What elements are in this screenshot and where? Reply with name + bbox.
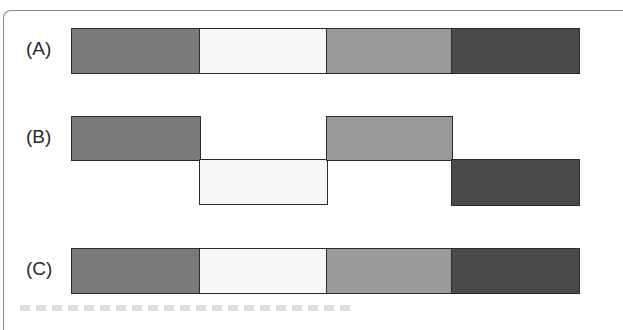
row-c-segment-4 [451,248,580,294]
row-b-segment-2 [199,159,328,205]
row-b-segment-3 [326,116,453,161]
row-c-segment-3 [326,248,453,294]
row-b-segment-4 [451,159,580,206]
row-label-b: (B) [26,126,66,148]
row-a-segment-1 [71,28,201,74]
row-b-segment-1 [71,116,201,161]
row-a-segment-2 [199,28,328,74]
row-a-segment-4 [451,28,580,74]
row-a-segment-3 [326,28,453,74]
row-c-segment-1 [71,248,201,294]
row-label-a: (A) [26,38,66,60]
row-c-segment-2 [199,248,328,294]
row-label-c: (C) [26,258,66,280]
cropped-caption [20,305,350,311]
